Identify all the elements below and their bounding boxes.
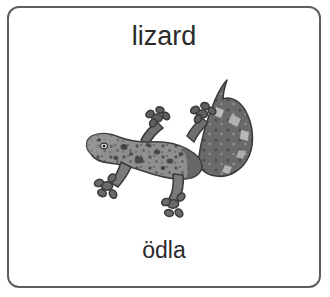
lizard-gecko-icon [69,66,264,221]
page-title: lizard [9,20,319,52]
flashcard: lizard [7,6,321,288]
translation-text: ödla [9,236,319,264]
lizard-gecko-illustration [69,66,264,221]
